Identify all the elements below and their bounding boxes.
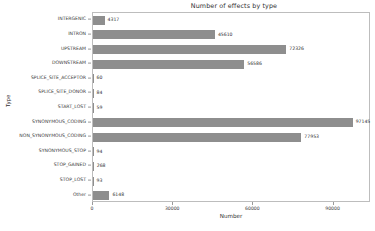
bar-value-label: 59 [97,106,103,111]
bar-value-label: 84 [97,91,103,96]
bar-row[interactable]: 97145 [93,118,369,127]
bar-row[interactable]: 56586 [93,60,369,69]
bar[interactable] [93,16,105,25]
bar[interactable] [93,103,94,112]
bar-value-label: 77953 [304,135,319,140]
y-tick-mark [88,48,91,49]
y-tick-mark [88,194,91,195]
bar-value-label: 6148 [112,193,124,198]
bar-row[interactable]: 59 [93,103,369,112]
y-tick-label: INTERGENIC [58,17,86,22]
y-tick-mark [88,77,91,78]
y-tick-label: SYNONYMOUS_CODING [32,119,86,124]
x-tick-mark [92,202,93,205]
y-tick-mark [88,150,91,151]
bar-value-label: 56586 [247,62,262,67]
bar-row[interactable]: 72326 [93,45,369,54]
bar-row[interactable]: 6148 [93,191,369,200]
x-tick-label: 0 [91,207,94,212]
bar[interactable] [93,177,94,186]
bar-row[interactable]: 60 [93,74,369,83]
plot-area: 4317456107232656586608459971457795394268… [92,12,370,202]
bar[interactable] [93,147,94,156]
x-tick-label: 30000 [165,207,180,212]
y-tick-mark [88,92,91,93]
bar-row[interactable]: 268 [93,162,369,171]
y-tick-mark [88,165,91,166]
y-tick-label: START_LOST [58,105,86,110]
y-axis-tick-labels: INTERGENICINTRONUPSTREAMDOWNSTREAMSPLICE… [0,12,92,202]
bar[interactable] [93,89,94,98]
y-tick-label: UPSTREAM [61,46,86,51]
bar[interactable] [93,191,109,200]
bar-row[interactable]: 4317 [93,16,369,25]
bars-layer: 4317456107232656586608459971457795394268… [93,13,369,201]
chart-figure: Number of effects by type Type INTERGENI… [0,0,375,231]
y-tick-label: SPLICE_SITE_ACCEPTOR [31,75,86,80]
bar-value-label: 4317 [108,18,120,23]
bar[interactable] [93,30,215,39]
y-tick-label: STOP_GAINED [54,163,86,168]
bar-row[interactable]: 94 [93,147,369,156]
bar[interactable] [93,74,94,83]
y-tick-mark [88,121,91,122]
y-tick-mark [88,180,91,181]
bar-value-label: 45610 [218,33,233,38]
bar[interactable] [93,60,244,69]
y-tick-mark [88,107,91,108]
y-tick-mark [88,136,91,137]
y-tick-label: SPLICE_SITE_DONOR [38,90,86,95]
bar-value-label: 268 [97,164,106,169]
y-tick-mark [88,19,91,20]
x-tick-mark [252,202,253,205]
bar-row[interactable]: 45610 [93,30,369,39]
x-tick-mark [172,202,173,205]
bar[interactable] [93,133,301,142]
y-tick-label: DOWNSTREAM [52,61,86,66]
bar[interactable] [93,162,94,171]
y-tick-label: Other [73,192,86,197]
bar-row[interactable]: 93 [93,177,369,186]
y-tick-label: INTRON [68,32,86,37]
x-tick-label: 60000 [245,207,260,212]
y-tick-mark [88,34,91,35]
y-tick-mark [88,63,91,64]
y-tick-label: SYNONYMOUS_STOP [39,149,86,154]
y-tick-label: NON_SYNONYMOUS_CODING [19,134,86,139]
bar-row[interactable]: 77953 [93,133,369,142]
bar-row[interactable]: 84 [93,89,369,98]
x-tick-mark [333,202,334,205]
chart-title: Number of effects by type [98,2,370,10]
x-tick-label: 90000 [325,207,340,212]
bar-value-label: 72326 [289,47,304,52]
bar-value-label: 97145 [356,120,371,125]
bar-value-label: 60 [97,76,103,81]
x-axis-title: Number [92,213,370,219]
bar-value-label: 94 [97,150,103,155]
bar-value-label: 93 [97,179,103,184]
y-tick-label: STOP_LOST [60,178,86,183]
bar[interactable] [93,45,286,54]
bar[interactable] [93,118,353,127]
